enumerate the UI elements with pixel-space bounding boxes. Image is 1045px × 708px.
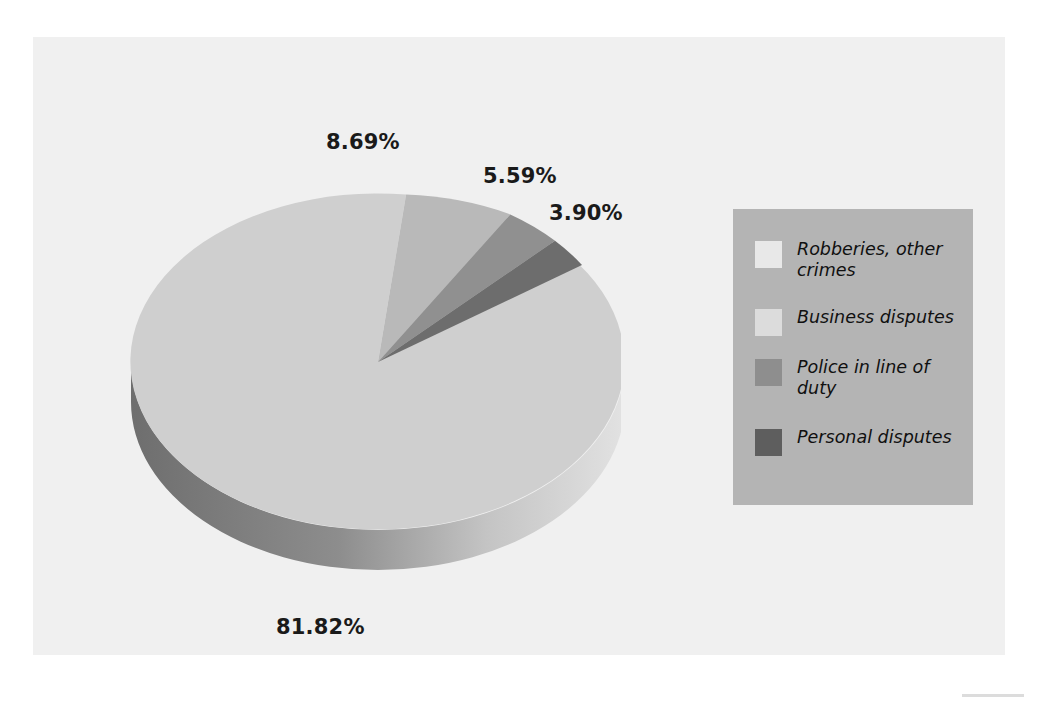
legend-item-business-disputes: Business disputes	[755, 307, 963, 336]
scan-artifact-line	[962, 694, 1024, 697]
pie-value-label-robberies-other-crimes: 81.82%	[276, 615, 365, 639]
figure-root: 81.82% 8.69% 5.59% 3.90% Robberies, othe…	[0, 0, 1045, 708]
legend-swatch-personal-disputes	[755, 429, 782, 456]
legend-label-business-disputes: Business disputes	[797, 307, 954, 328]
pie-value-label-personal-disputes: 3.90%	[549, 201, 623, 225]
pie-value-label-police-in-line-of-duty: 5.59%	[483, 164, 557, 188]
chart-legend: Robberies, other crimes Business dispute…	[733, 209, 973, 505]
pie-slices	[130, 193, 621, 529]
pie-value-label-business-disputes: 8.69%	[326, 130, 400, 154]
legend-item-personal-disputes: Personal disputes	[755, 427, 963, 456]
legend-swatch-robberies-other-crimes	[755, 241, 782, 268]
legend-item-police-in-line-of-duty: Police in line of duty	[755, 357, 963, 400]
pie-chart-svg	[121, 155, 621, 605]
pie-chart	[121, 155, 621, 605]
legend-swatch-business-disputes	[755, 309, 782, 336]
chart-plot-area: 81.82% 8.69% 5.59% 3.90% Robberies, othe…	[33, 37, 1005, 655]
legend-label-police-in-line-of-duty: Police in line of duty	[797, 357, 963, 400]
legend-swatch-police-in-line-of-duty	[755, 359, 782, 386]
legend-label-personal-disputes: Personal disputes	[797, 427, 952, 448]
legend-item-robberies-other-crimes: Robberies, other crimes	[755, 239, 963, 282]
legend-label-robberies-other-crimes: Robberies, other crimes	[797, 239, 963, 282]
